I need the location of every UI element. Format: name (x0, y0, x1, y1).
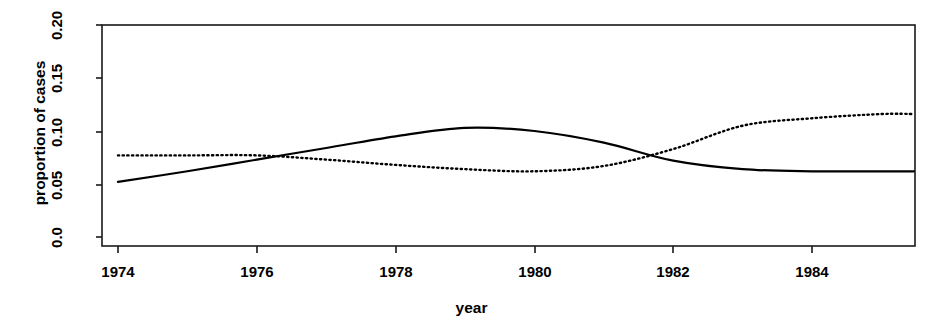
x-tick-label-3: 1980 (495, 263, 575, 280)
x-tick-label-4: 1982 (633, 263, 713, 280)
x-tick-label-2: 1978 (356, 263, 436, 280)
y-tick-label-4: 0.20 (48, 0, 65, 52)
y-tick-label-3: 0.15 (48, 53, 65, 105)
chart-figure: proportion of cases year 0.0 0.05 0.10 0… (0, 0, 943, 329)
x-tick-label-5: 1984 (772, 263, 852, 280)
y-tick-label-2: 0.10 (48, 107, 65, 159)
y-tick-label-1: 0.05 (48, 160, 65, 212)
x-tick-label-1: 1976 (217, 263, 297, 280)
y-axis-title: proportion of cases (31, 18, 49, 248)
x-tick-label-0: 1974 (78, 263, 158, 280)
x-axis-title: year (0, 299, 943, 317)
y-tick-label-0: 0.0 (48, 212, 65, 264)
